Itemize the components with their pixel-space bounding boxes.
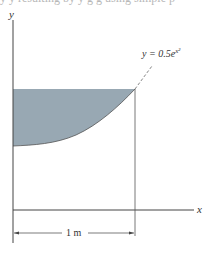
dimension-label: 1 m [66, 227, 82, 238]
shaded-region [13, 89, 135, 146]
diagram: y x 1 m y = 0.5ex² [0, 0, 212, 256]
arrowhead-left-icon [14, 232, 19, 235]
curve-dashed-continuation [135, 66, 152, 89]
x-axis-label: x [196, 203, 202, 215]
curve-equation-exponent: x² [174, 47, 181, 55]
curve-equation-label: y = 0.5ex² [141, 47, 181, 59]
y-axis-label: y [8, 8, 14, 20]
arrowhead-right-icon [129, 232, 134, 235]
curve-equation-base: y = 0.5e [141, 48, 176, 59]
